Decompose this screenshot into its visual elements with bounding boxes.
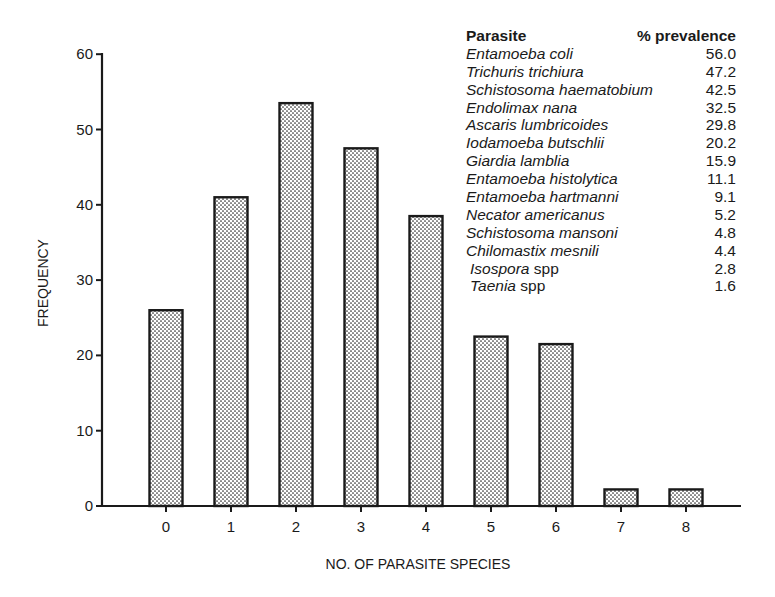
y-tick-label: 60 <box>76 45 93 62</box>
prevalence-row: Entamoeba hartmanni9.1 <box>466 188 736 206</box>
prevalence-value: 29.8 <box>686 116 736 134</box>
parasite-name: Ascaris lumbricoides <box>466 116 608 134</box>
prevalence-value: 9.1 <box>686 188 736 206</box>
bar-8 <box>670 489 703 506</box>
parasite-name: Iodamoeba butschlii <box>466 134 604 152</box>
bar-7 <box>605 489 638 506</box>
prevalence-row: Trichuris trichiura47.2 <box>466 63 736 81</box>
parasite-name: Entamoeba coli <box>466 45 573 63</box>
parasite-name: Endolimax nana <box>466 99 577 117</box>
bar-0 <box>150 310 183 506</box>
parasite-name: Schistosoma haematobium <box>466 81 653 99</box>
prevalence-value: 15.9 <box>686 152 736 170</box>
bar-3 <box>345 148 378 506</box>
prevalence-table-header: Parasite % prevalence <box>466 27 736 45</box>
y-axis-title: FREQUENCY <box>35 238 51 327</box>
header-parasite: Parasite <box>466 27 526 45</box>
prevalence-value: 1.6 <box>686 277 736 295</box>
prevalence-value: 5.2 <box>686 206 736 224</box>
x-tick-label: 8 <box>682 518 690 535</box>
x-tick-label: 6 <box>552 518 560 535</box>
y-tick-label: 20 <box>76 346 93 363</box>
prevalence-value: 32.5 <box>686 99 736 117</box>
prevalence-value: 4.4 <box>686 242 736 260</box>
y-tick-label: 10 <box>76 422 93 439</box>
prevalence-row: Chilomastix mesnili4.4 <box>466 242 736 260</box>
parasite-name: Entamoeba hartmanni <box>466 188 619 206</box>
prevalence-row: Entamoeba coli56.0 <box>466 45 736 63</box>
bar-1 <box>215 197 248 506</box>
bar-4 <box>410 216 443 506</box>
x-axis-ticks: 012345678 <box>162 506 690 535</box>
parasite-name: Taenia spp <box>466 277 545 295</box>
y-axis-ticks: 0102030405060 <box>76 45 102 514</box>
y-tick-label: 0 <box>85 497 93 514</box>
parasite-name: Schistosoma mansoni <box>466 224 618 242</box>
x-tick-label: 3 <box>357 518 365 535</box>
prevalence-row: Schistosoma haematobium42.5 <box>466 81 736 99</box>
parasite-name: Giardia lamblia <box>466 152 569 170</box>
prevalence-table-body: Entamoeba coli56.0Trichuris trichiura47.… <box>466 45 736 295</box>
prevalence-row: Giardia lamblia15.9 <box>466 152 736 170</box>
x-axis-title: NO. OF PARASITE SPECIES <box>326 556 511 572</box>
y-tick-label: 50 <box>76 121 93 138</box>
prevalence-value: 2.8 <box>686 260 736 278</box>
x-tick-label: 4 <box>422 518 430 535</box>
prevalence-row: Ascaris lumbricoides29.8 <box>466 116 736 134</box>
prevalence-row: Entamoeba histolytica11.1 <box>466 170 736 188</box>
header-prevalence: % prevalence <box>637 27 736 45</box>
prevalence-value: 56.0 <box>686 45 736 63</box>
x-tick-label: 0 <box>162 518 170 535</box>
bar-6 <box>540 344 573 506</box>
prevalence-value: 20.2 <box>686 134 736 152</box>
parasite-name: Isospora spp <box>466 260 559 278</box>
parasite-name: Chilomastix mesnili <box>466 242 599 260</box>
prevalence-row: Taenia spp1.6 <box>466 277 736 295</box>
parasite-name: Entamoeba histolytica <box>466 170 618 188</box>
y-tick-label: 40 <box>76 196 93 213</box>
prevalence-value: 11.1 <box>686 170 736 188</box>
y-tick-label: 30 <box>76 271 93 288</box>
bar-5 <box>475 337 508 506</box>
x-tick-label: 5 <box>487 518 495 535</box>
prevalence-row: Endolimax nana32.5 <box>466 99 736 117</box>
parasite-name: Trichuris trichiura <box>466 63 584 81</box>
x-tick-label: 1 <box>227 518 235 535</box>
parasite-name: Necator americanus <box>466 206 605 224</box>
prevalence-row: Iodamoeba butschlii20.2 <box>466 134 736 152</box>
x-tick-label: 2 <box>292 518 300 535</box>
prevalence-value: 42.5 <box>686 81 736 99</box>
prevalence-row: Necator americanus5.2 <box>466 206 736 224</box>
prevalence-row: Isospora spp2.8 <box>466 260 736 278</box>
prevalence-table: Parasite % prevalence Entamoeba coli56.0… <box>466 27 736 295</box>
prevalence-row: Schistosoma mansoni4.8 <box>466 224 736 242</box>
bar-2 <box>280 103 313 506</box>
prevalence-value: 4.8 <box>686 224 736 242</box>
x-tick-label: 7 <box>617 518 625 535</box>
prevalence-value: 47.2 <box>686 63 736 81</box>
